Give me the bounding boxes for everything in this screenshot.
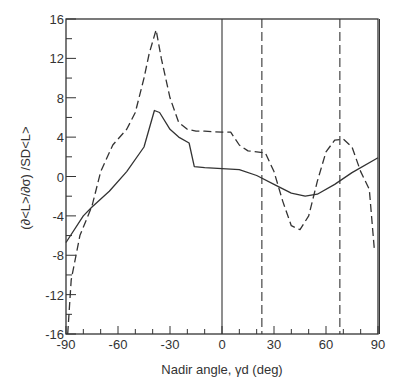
x-tick-label: -30 (161, 337, 180, 352)
y-tick-label: -16 (45, 327, 64, 342)
reference-lines (222, 19, 340, 334)
y-axis: -16-12-8-40481216 (45, 12, 76, 342)
series-dashed (68, 30, 375, 334)
x-tick-label: 90 (371, 337, 385, 352)
y-tick-label: -8 (52, 248, 64, 263)
y-tick-label: 4 (57, 130, 64, 145)
chart: -90-60-300306090 -16-12-8-40481216 Nadir… (0, 0, 400, 386)
y-axis-title: (∂<L>/∂σ) /SD<L> (18, 126, 33, 229)
plot-frame (66, 19, 380, 334)
x-axis-title: Nadir angle, γd (deg) (161, 362, 282, 377)
y-tick-label: 0 (57, 170, 64, 185)
x-tick-label: -60 (109, 337, 128, 352)
y-tick-label: 8 (57, 91, 64, 106)
x-tick-label: 0 (218, 337, 225, 352)
y-tick-label: 16 (50, 12, 64, 27)
svg-text:(∂<L>/∂σ) /SD<L>: (∂<L>/∂σ) /SD<L> (18, 126, 33, 229)
y-tick-label: -4 (52, 209, 64, 224)
x-tick-label: 30 (267, 337, 281, 352)
x-axis: -90-60-300306090 (57, 326, 386, 352)
y-tick-label: 12 (50, 51, 64, 66)
y-tick-label: -12 (45, 288, 64, 303)
x-tick-label: 60 (319, 337, 333, 352)
